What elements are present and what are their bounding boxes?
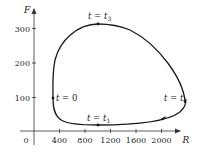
x-tick-label-800: 800 [77,136,92,145]
phase-plot: 400 800 1200 1600 2000 0 100 200 300 R F… [0,0,200,159]
x-tick-label-1600: 1600 [126,136,146,145]
origin-label: 0 [23,136,28,145]
x-tick-label-1200: 1200 [100,136,120,145]
label-t0: t = 0 [56,93,77,103]
label-t1: t = t1 [87,113,110,124]
y-tick-label-300: 300 [15,25,30,34]
trajectory-points [52,23,187,127]
point-t1 [97,124,100,127]
x-tick-label-400: 400 [52,136,67,145]
point-t0 [52,97,55,100]
point-t3 [97,23,100,26]
label-t3: t = t3 [88,11,111,22]
x-axis-label: R [182,135,190,145]
x-tick-label-2000: 2000 [151,136,171,145]
y-tick-label-100: 100 [15,94,30,103]
trajectory-curve [53,24,186,125]
y-axis-label: F [23,5,31,15]
y-tick-label-200: 200 [15,59,30,68]
